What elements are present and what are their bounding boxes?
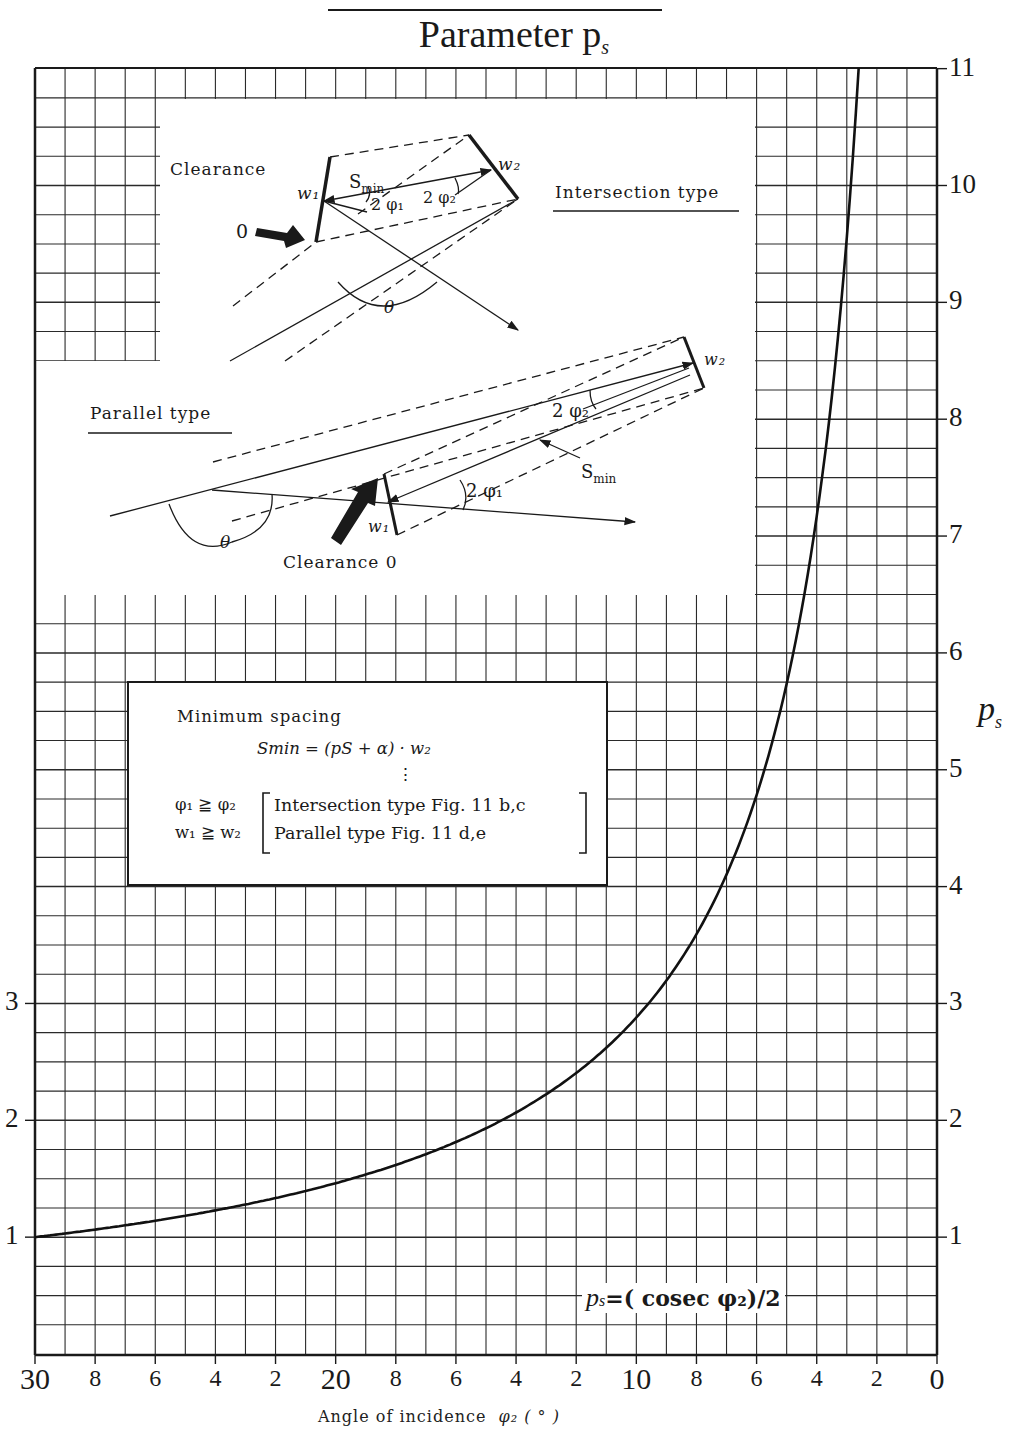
- bottom-tick-label: 4: [209, 1365, 221, 1392]
- bottom-tick-label: 30: [20, 1362, 50, 1396]
- parallel-angle2-label: 2 φ₂: [552, 400, 589, 421]
- x-axis-title: Angle of incidence φ₂ ( ° ): [318, 1407, 560, 1426]
- parallel-heading: Parallel type: [90, 403, 211, 423]
- intersection-zero-label: 0: [236, 220, 249, 242]
- intersection-w2-label: w₂: [498, 154, 521, 174]
- curve-equation-label: ps=( cosec φ₂)/2: [582, 1283, 785, 1313]
- intersection-clearance-label: Clearance: [170, 159, 266, 179]
- right-tick-label: 8: [949, 402, 963, 433]
- bottom-tick-label: 6: [149, 1365, 161, 1392]
- left-tick-label: 1: [5, 1220, 19, 1251]
- intersection-w1-label: w₁: [297, 183, 320, 203]
- bottom-tick-label: 2: [570, 1365, 582, 1392]
- parallel-w2-label: w₂: [704, 350, 726, 369]
- left-tick-label: 3: [5, 986, 19, 1017]
- intersection-angle1-label: 2 φ₁: [371, 195, 404, 214]
- bottom-tick-label: 6: [751, 1365, 763, 1392]
- bottom-tick-label: 8: [89, 1365, 101, 1392]
- bottom-tick-label: 0: [930, 1362, 945, 1396]
- left-tick-label: 2: [5, 1103, 19, 1134]
- intersection-smin-label: Smin: [349, 171, 384, 196]
- right-tick-label: 11: [949, 52, 975, 83]
- inset-masks: [36, 99, 755, 595]
- curve-eq-lhs: p: [586, 1283, 599, 1312]
- curve-eq-rhs: =( cosec φ₂)/2: [605, 1285, 780, 1311]
- intersection-heading: Intersection type: [555, 182, 719, 202]
- formula-brackets: [129, 683, 606, 884]
- bottom-tick-label: 8: [390, 1365, 402, 1392]
- right-tick-label: 7: [949, 519, 963, 550]
- intersection-angle2-label: 2 φ₂: [423, 188, 456, 207]
- parallel-theta-label: θ: [220, 532, 231, 552]
- bottom-tick-label: 20: [321, 1362, 351, 1396]
- right-tick-label: 2: [949, 1103, 963, 1134]
- bottom-tick-label: 4: [510, 1365, 522, 1392]
- parallel-clearance-label: Clearance 0: [283, 552, 398, 572]
- right-tick-label: 9: [949, 285, 963, 316]
- intersection-theta-label: θ: [384, 297, 395, 317]
- right-tick-label: 5: [949, 753, 963, 784]
- parallel-angle1-label: 2 φ₁: [466, 480, 503, 501]
- bottom-tick-label: 8: [690, 1365, 702, 1392]
- right-tick-label: 4: [949, 870, 963, 901]
- bottom-tick-label: 2: [871, 1365, 883, 1392]
- parallel-w1-label: w₁: [368, 517, 390, 536]
- right-tick-label: 1: [949, 1220, 963, 1251]
- bottom-tick-label: 4: [811, 1365, 823, 1392]
- right-tick-label: 6: [949, 636, 963, 667]
- right-tick-label: 10: [949, 169, 976, 200]
- parallel-smin-label: Smin: [581, 461, 616, 486]
- minimum-spacing-box: Minimum spacing Smin = (pS + α) · w₂ ⋮ φ…: [127, 681, 608, 886]
- bottom-tick-label: 10: [621, 1362, 651, 1396]
- right-tick-label: 3: [949, 986, 963, 1017]
- bottom-tick-label: 6: [450, 1365, 462, 1392]
- y-axis-title: ps: [978, 690, 1002, 733]
- bottom-tick-label: 2: [270, 1365, 282, 1392]
